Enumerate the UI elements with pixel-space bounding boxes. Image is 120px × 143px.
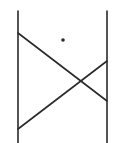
dots-group bbox=[61, 38, 65, 42]
geometry-diagram bbox=[0, 0, 120, 143]
point-dot bbox=[61, 38, 65, 42]
